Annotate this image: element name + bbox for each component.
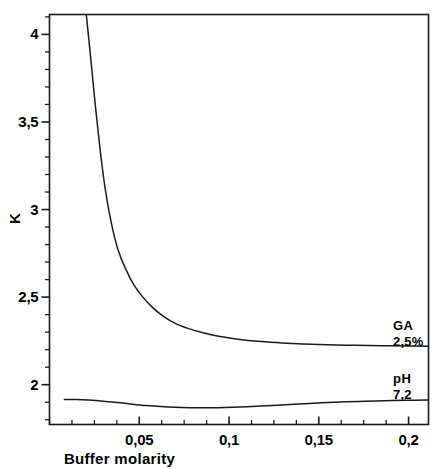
x-tick-label: 0,1 bbox=[189, 431, 269, 448]
series-annotation-0: GA2,5% bbox=[393, 318, 423, 351]
x-tick-label: 0,15 bbox=[279, 431, 359, 448]
series-line-1 bbox=[64, 400, 428, 408]
annotation-line-1: GA bbox=[393, 318, 423, 334]
plot-frame bbox=[50, 15, 429, 425]
series-line-0 bbox=[76, 0, 428, 346]
y-tick-label: 2,5 bbox=[18, 288, 38, 305]
annotation-line-2: 7,2 bbox=[393, 387, 412, 403]
x-tick-label: 0,05 bbox=[99, 431, 179, 448]
y-axis-ticks bbox=[42, 17, 50, 420]
x-axis-ticks bbox=[50, 417, 409, 425]
y-axis-title: K bbox=[6, 206, 23, 230]
y-tick-label: 2 bbox=[30, 376, 38, 393]
y-tick-label: 3,5 bbox=[18, 113, 38, 130]
annotation-line-1: pH bbox=[393, 371, 412, 387]
y-tick-label: 4 bbox=[30, 25, 38, 42]
chart-figure: 22,533,54 0,050,10,150,2 K Buffer molari… bbox=[0, 0, 442, 469]
annotation-line-2: 2,5% bbox=[393, 334, 423, 350]
data-series-lines bbox=[64, 0, 428, 408]
plot-canvas bbox=[0, 0, 442, 469]
x-tick-label: 0,2 bbox=[369, 431, 442, 448]
y-tick-label: 3 bbox=[30, 201, 38, 218]
x-axis-title: Buffer molarity bbox=[0, 450, 239, 467]
series-annotation-1: pH7,2 bbox=[393, 371, 412, 404]
